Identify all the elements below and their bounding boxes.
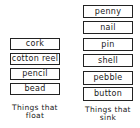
float-item-pencil: pencil — [10, 68, 60, 80]
float-item-cotton-reel: cotton reel — [10, 53, 60, 65]
sink-item-nail: nail — [83, 21, 133, 34]
float-item-cork: cork — [10, 38, 60, 50]
sink-item-penny: penny — [83, 5, 133, 18]
sink-item-shell: shell — [83, 54, 133, 67]
sink-caption-line2: sink — [78, 114, 138, 122]
sink-caption: Things that sink — [78, 106, 138, 122]
float-item-bead: bead — [10, 83, 60, 95]
sink-item-button: button — [83, 87, 133, 101]
sink-item-pebble: pebble — [83, 71, 133, 85]
sink-item-pin: pin — [83, 38, 133, 51]
float-caption-line2: float — [6, 112, 64, 120]
float-caption: Things that float — [6, 104, 64, 120]
